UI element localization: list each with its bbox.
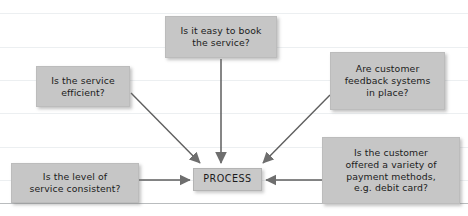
node-feedback-systems[interactable]: Are customer feedback systems in place?	[330, 52, 445, 110]
node-service-efficient[interactable]: Is the service efficient?	[36, 66, 130, 107]
node-service-efficient-label: Is the service efficient?	[51, 75, 114, 99]
node-feedback-systems-label: Are customer feedback systems in place?	[345, 63, 431, 99]
connector-service-efficient	[131, 93, 200, 163]
diagram-canvas: Is it easy to book the service? Is the s…	[0, 0, 468, 216]
node-service-consistent-label: Is the level of service consistent?	[30, 171, 121, 195]
node-book-service[interactable]: Is it easy to book the service?	[165, 16, 277, 58]
connector-feedback-systems	[263, 95, 330, 163]
node-payment-methods-label: Is the customer offered a variety of pay…	[345, 147, 436, 195]
node-process[interactable]: PROCESS	[193, 168, 262, 191]
node-book-service-label: Is it easy to book the service?	[180, 25, 261, 49]
node-payment-methods[interactable]: Is the customer offered a variety of pay…	[322, 137, 460, 204]
node-service-consistent[interactable]: Is the level of service consistent?	[11, 163, 139, 203]
node-process-label: PROCESS	[203, 173, 251, 185]
